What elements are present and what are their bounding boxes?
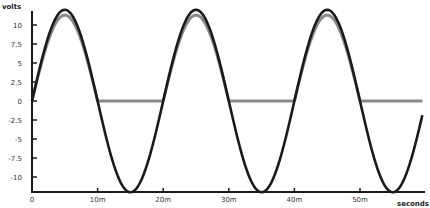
y-tick-label: -10 <box>11 174 22 182</box>
x-tick-label: 20m <box>155 196 171 204</box>
y-tick-label: 10 <box>13 22 22 30</box>
x-axis-ticks: 010m20m30m40m50m <box>30 188 368 204</box>
x-tick-label: 40m <box>287 196 303 204</box>
x-tick-label: 10m <box>90 196 106 204</box>
x-tick-label: 50m <box>352 196 368 204</box>
y-axis-title: volts <box>2 3 21 11</box>
x-axis-title: seconds <box>397 200 429 208</box>
y-tick-label: 7.5 <box>11 41 22 49</box>
y-tick-label: -2.5 <box>8 117 22 125</box>
x-tick-label: 0 <box>30 196 34 204</box>
y-tick-label: -7.5 <box>8 155 22 163</box>
plot-area <box>32 10 422 192</box>
y-tick-label: 2.5 <box>11 79 22 87</box>
x-tick-label: 30m <box>221 196 237 204</box>
y-tick-label: 5 <box>18 60 22 68</box>
rectifier-waveform-chart: 107.552.50-2.5-5-7.5-10 010m20m30m40m50m… <box>0 0 430 208</box>
y-tick-label: 0 <box>18 98 22 106</box>
y-tick-label: -5 <box>15 136 22 144</box>
